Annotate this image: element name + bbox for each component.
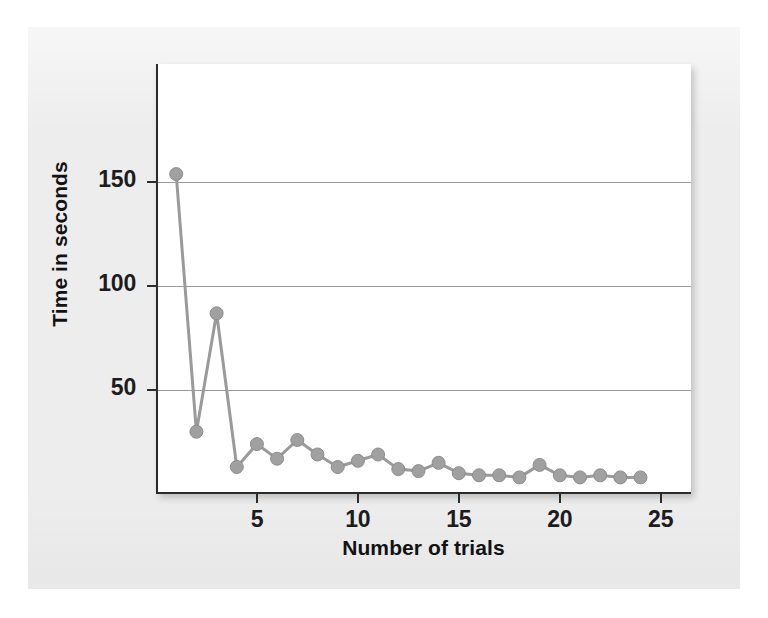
data-point [291,434,304,447]
data-point [190,425,203,438]
data-point [513,471,526,484]
data-point [230,461,243,474]
data-point [574,471,587,484]
x-tick-label-20: 20 [520,506,600,533]
data-point [493,469,506,482]
plot-area [156,64,691,494]
x-tick-label-10: 10 [318,506,398,533]
x-tick-5 [256,494,258,503]
data-point [432,456,445,469]
data-point [351,454,364,467]
data-point [210,307,223,320]
data-point [372,448,385,461]
x-tick-label-5: 5 [217,506,297,533]
data-point [452,467,465,480]
x-tick-label-25: 25 [621,506,701,533]
x-tick-10 [357,494,359,503]
y-tick-100 [147,285,156,287]
data-point [412,465,425,478]
x-tick-15 [458,494,460,503]
data-point [271,452,284,465]
chart-figure: 50100150 510152025 Number of trials Time… [0,0,768,618]
x-tick-label-15: 15 [419,506,499,533]
y-tick-label-50: 50 [0,374,136,401]
y-tick-150 [147,181,156,183]
data-point [311,448,324,461]
series-line-time-in-seconds [156,64,691,494]
data-point [594,469,607,482]
data-point [250,438,263,451]
x-tick-25 [660,494,662,503]
y-axis-title: Time in seconds [48,124,72,364]
y-tick-50 [147,389,156,391]
x-tick-20 [559,494,561,503]
data-point [634,471,647,484]
data-point [553,469,566,482]
data-point [331,461,344,474]
data-point [614,471,627,484]
data-point [533,458,546,471]
data-point [170,168,183,181]
x-axis-title: Number of trials [156,536,691,560]
data-point [392,463,405,476]
data-point [473,469,486,482]
